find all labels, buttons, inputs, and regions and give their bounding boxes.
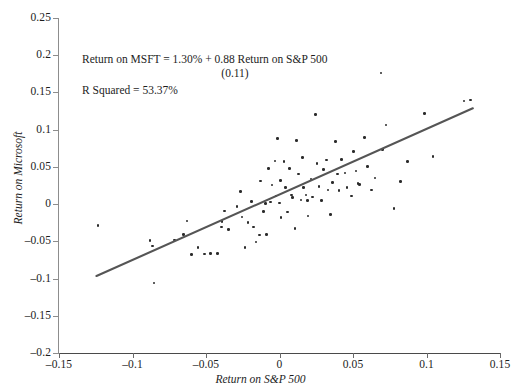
x-tick-label: 0.05 xyxy=(323,358,383,370)
data-point xyxy=(223,210,226,213)
x-tick-label: 0.1 xyxy=(397,358,457,370)
data-point xyxy=(311,196,314,199)
data-point xyxy=(393,207,396,210)
y-tick-label: –0.05 xyxy=(0,235,51,247)
y-tick-label: –0.1 xyxy=(0,273,51,285)
y-tick-label-text: –0.1 xyxy=(5,273,51,285)
y-tick-mark xyxy=(53,316,59,317)
data-point xyxy=(182,233,185,236)
data-point xyxy=(432,155,435,158)
data-point xyxy=(280,216,283,219)
y-tick-label-text: –0.2 xyxy=(5,347,51,359)
data-point xyxy=(283,160,286,163)
data-point xyxy=(271,184,274,187)
y-tick-mark xyxy=(53,92,59,93)
data-point xyxy=(264,202,267,205)
y-tick-mark xyxy=(53,279,59,280)
data-point xyxy=(334,140,337,143)
data-point xyxy=(316,162,319,165)
x-tick-label: –0.1 xyxy=(103,358,163,370)
x-tick-label: –0.05 xyxy=(176,358,236,370)
data-point xyxy=(300,199,303,202)
data-point xyxy=(97,224,100,227)
y-tick-mark xyxy=(53,18,59,19)
y-tick-label: 0.1 xyxy=(0,124,51,136)
data-point xyxy=(236,205,239,208)
data-point xyxy=(220,226,223,229)
data-point xyxy=(267,167,270,170)
y-tick-label: –0.15 xyxy=(0,310,51,322)
data-point xyxy=(259,180,262,183)
data-point xyxy=(186,220,189,223)
data-point xyxy=(274,160,277,163)
data-point xyxy=(463,100,466,103)
data-point xyxy=(322,168,325,171)
y-tick-mark xyxy=(53,241,59,242)
data-point xyxy=(250,200,253,203)
data-point xyxy=(336,173,339,176)
data-point xyxy=(288,167,291,170)
data-point xyxy=(358,183,361,186)
data-point xyxy=(216,252,219,255)
y-tick-mark xyxy=(53,204,59,205)
data-point xyxy=(374,177,377,180)
regression-equation-text: Return on MSFT = 1.30% + 0.88 Return on … xyxy=(82,52,334,66)
y-tick-label-text: 0.2 xyxy=(5,49,51,61)
data-point xyxy=(265,233,268,236)
data-point xyxy=(302,186,305,189)
data-point xyxy=(221,220,224,223)
data-point xyxy=(307,215,310,218)
data-point xyxy=(276,137,279,140)
data-point xyxy=(269,201,272,204)
data-point xyxy=(331,181,334,184)
data-point xyxy=(151,245,154,248)
data-point xyxy=(305,194,308,197)
data-point xyxy=(370,189,373,192)
data-point xyxy=(295,139,298,142)
scatter-chart: 0.250.20.150.10.050–0.05–0.1–0.15–0.2 –0… xyxy=(0,0,521,392)
data-point xyxy=(320,199,323,202)
data-point xyxy=(381,148,384,151)
data-point xyxy=(244,246,247,249)
data-point xyxy=(279,179,282,182)
x-axis-title: Return on S&P 500 xyxy=(0,373,521,385)
data-point xyxy=(406,160,409,163)
data-point xyxy=(241,216,244,219)
data-point xyxy=(278,202,281,205)
data-point xyxy=(363,136,366,139)
data-point xyxy=(301,156,304,159)
data-point xyxy=(469,99,472,102)
y-tick-label: 0.2 xyxy=(0,49,51,61)
data-point xyxy=(352,150,355,153)
data-point xyxy=(355,170,358,173)
data-point xyxy=(338,189,341,192)
data-point xyxy=(275,195,278,198)
data-point xyxy=(247,221,250,224)
data-point xyxy=(294,227,297,230)
r-squared-text: R Squared = 53.37% xyxy=(82,83,334,97)
y-tick-label: 0.25 xyxy=(0,12,51,24)
data-point xyxy=(149,239,152,242)
data-point xyxy=(297,173,300,176)
data-point xyxy=(423,112,426,115)
regression-annotation: Return on MSFT = 1.30% + 0.88 Return on … xyxy=(82,52,334,97)
y-tick-label-text: 0.25 xyxy=(5,12,51,24)
data-point xyxy=(255,241,258,244)
data-point xyxy=(252,226,255,229)
data-point xyxy=(173,239,176,242)
data-point xyxy=(284,186,287,189)
data-point xyxy=(350,195,353,198)
data-point xyxy=(325,159,328,162)
y-axis-line xyxy=(58,18,59,354)
data-point xyxy=(190,253,193,256)
y-tick-label-text: 0.15 xyxy=(5,86,51,98)
data-point xyxy=(399,180,402,183)
data-point xyxy=(318,185,321,188)
data-point xyxy=(153,282,156,285)
y-axis-title: Return on Microsoft xyxy=(12,98,24,258)
data-point xyxy=(327,189,330,192)
data-point xyxy=(385,124,388,127)
x-tick-label: 0 xyxy=(250,358,310,370)
data-point xyxy=(329,213,332,216)
data-point xyxy=(380,72,383,75)
